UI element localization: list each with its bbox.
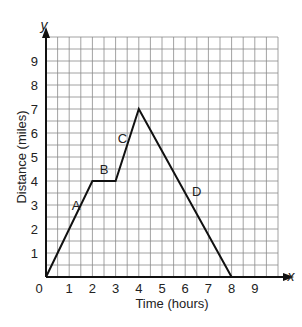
tick-labels: 123456789123456789 [31, 54, 259, 296]
y-tick-label: 5 [31, 150, 38, 165]
y-tick-label: 3 [31, 198, 38, 213]
x-tick-label: 8 [228, 281, 235, 296]
y-tick-label: 1 [31, 246, 38, 261]
x-tick-label: 5 [158, 281, 165, 296]
x-tick-label: 1 [66, 281, 73, 296]
segment-labels: ABCD [72, 131, 202, 213]
x-tick-label: 9 [251, 281, 258, 296]
distance-time-chart: 123456789123456789 ABCD Time (hours) Dis… [0, 0, 302, 327]
x-tick-label: 7 [205, 281, 212, 296]
x-axis-title: Time (hours) [135, 296, 208, 311]
segment-label: B [100, 162, 109, 177]
x-tick-label: 6 [182, 281, 189, 296]
y-tick-label: 4 [31, 174, 38, 189]
x-tick-label: 2 [89, 281, 96, 296]
y-tick-label: 6 [31, 126, 38, 141]
x-tick-label: 4 [135, 281, 142, 296]
x-tick-label: 3 [112, 281, 119, 296]
y-axis-title: Distance (miles) [14, 110, 29, 203]
origin-label: 0 [35, 281, 42, 296]
y-tick-label: 8 [31, 78, 38, 93]
y-tick-label: 2 [31, 222, 38, 237]
axes [42, 27, 294, 281]
segment-label: C [118, 131, 127, 146]
segment-label: D [192, 184, 201, 199]
y-tick-label: 7 [31, 102, 38, 117]
y-tick-label: 9 [31, 54, 38, 69]
y-axis-letter: y [40, 17, 49, 33]
x-axis-letter: x [287, 268, 296, 284]
segment-label: A [72, 198, 81, 213]
grid-lines [46, 37, 278, 277]
